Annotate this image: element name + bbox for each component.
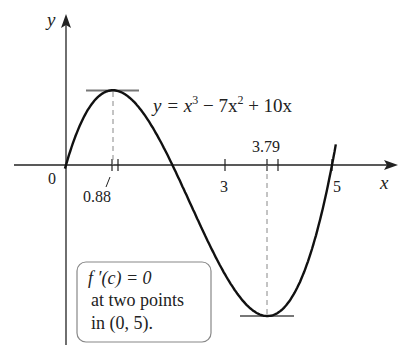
graph-canvas: y x 0 0.88 3 3.79 5 y = x3 − 7x2 + 10x f… (0, 0, 409, 360)
y-axis-label: y (45, 9, 56, 30)
x-axis-label: x (379, 172, 389, 193)
tick-label-5: 5 (333, 178, 341, 195)
annotation-line-2: at two points (91, 290, 184, 310)
origin-label: 0 (48, 170, 56, 187)
annotation-line-3: in (0, 5). (91, 313, 153, 334)
tick-label-379: 3.79 (252, 138, 280, 155)
tick-label-3: 3 (220, 178, 228, 195)
annotation-line-1: f ′(c) = 0 (88, 268, 152, 289)
tick-label-088: 0.88 (83, 188, 111, 205)
tick-leader-088 (106, 177, 110, 187)
function-label: y = x3 − 7x2 + 10x (151, 93, 293, 116)
